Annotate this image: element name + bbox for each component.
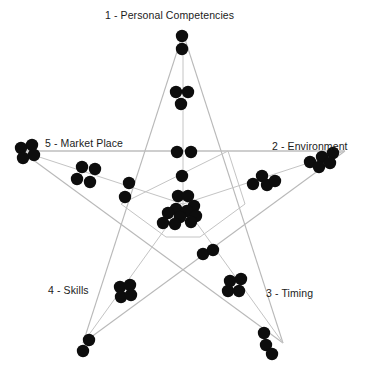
data-point (207, 244, 219, 256)
data-point (233, 285, 245, 297)
axis-spoke-5 (21, 151, 183, 204)
data-point (176, 170, 188, 182)
data-point (171, 146, 183, 158)
data-point (185, 146, 197, 158)
axis-label-market-place: 5 - Market Place (45, 138, 123, 149)
data-point (176, 30, 188, 42)
data-point (83, 334, 95, 346)
axis-label-personal-competencies: 1 - Personal Competencies (105, 10, 234, 21)
axis-label-timing: 3 - Timing (266, 288, 313, 299)
data-point (17, 152, 29, 164)
data-point (170, 86, 182, 98)
data-point (269, 175, 281, 187)
axis-label-skills: 4 - Skills (48, 285, 89, 296)
data-point (119, 191, 131, 203)
data-point (28, 149, 40, 161)
data-point (157, 217, 169, 229)
data-point (71, 173, 83, 185)
data-point (247, 178, 259, 190)
data-point (235, 273, 247, 285)
inner-pentagon-edge (228, 151, 245, 204)
data-point (169, 218, 181, 230)
data-point (175, 98, 187, 110)
data-point (222, 285, 234, 297)
data-point (182, 86, 194, 98)
data-point (89, 163, 101, 175)
inner-pentagon-edge (200, 204, 245, 237)
data-point (125, 289, 137, 301)
data-point (84, 176, 96, 188)
data-point (77, 345, 89, 357)
data-point (266, 348, 278, 360)
data-point (176, 43, 188, 55)
data-point (258, 327, 270, 339)
data-point (185, 216, 197, 228)
data-point (123, 177, 135, 189)
chart-canvas (0, 0, 372, 374)
data-point (313, 161, 325, 173)
data-points-layer (15, 30, 339, 360)
axis-label-environment: 2 - Environment (272, 141, 348, 152)
axis-spoke-3 (183, 204, 283, 343)
star-scatter-chart: 1 - Personal Competencies 2 - Environmen… (0, 0, 372, 374)
data-point (76, 161, 88, 173)
data-point (324, 157, 336, 169)
